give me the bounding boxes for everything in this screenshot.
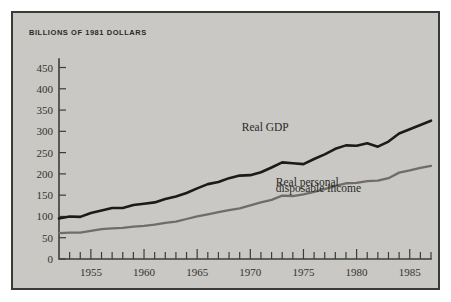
chart-figure: BILLIONS OF 1981 DOLLARS 050100150200250… [11, 11, 440, 290]
y-tick-label: 450 [37, 62, 54, 74]
x-tick-label: 1985 [399, 266, 422, 278]
y-tick-label: 250 [37, 147, 54, 159]
y-tick-label: 0 [48, 253, 54, 265]
line-chart: 050100150200250300350400450 195519601965… [13, 13, 442, 292]
y-tick-label: 200 [37, 168, 54, 180]
x-tick-label: 1970 [239, 266, 262, 278]
y-tick-label: 150 [37, 189, 54, 201]
x-axis-ticks: 1955196019651970197519801985 [70, 249, 431, 278]
series-line-real-gdp [59, 121, 431, 219]
x-tick-label: 1975 [292, 266, 315, 278]
y-tick-label: 100 [37, 210, 54, 222]
y-axis-ticks: 050100150200250300350400450 [37, 62, 67, 265]
x-tick-label: 1960 [133, 266, 156, 278]
series-annotation: disposable income [276, 182, 361, 195]
x-tick-label: 1980 [346, 266, 369, 278]
y-tick-label: 400 [37, 83, 54, 95]
y-tick-label: 50 [42, 232, 54, 244]
y-tick-label: 350 [37, 104, 54, 116]
series-annotation: Real GDP [242, 121, 289, 133]
data-series [59, 121, 431, 233]
x-tick-label: 1965 [186, 266, 209, 278]
x-tick-label: 1955 [80, 266, 103, 278]
y-tick-label: 300 [37, 125, 54, 137]
series-annotations: Real GDPReal personaldisposable income [242, 121, 361, 194]
